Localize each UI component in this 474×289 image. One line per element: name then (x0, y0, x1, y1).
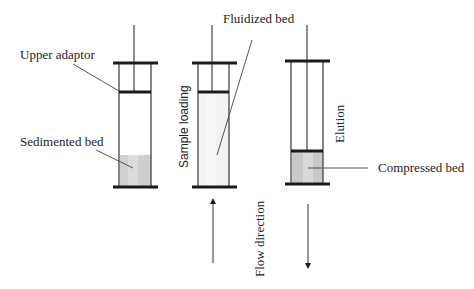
eba-diagram: Upper adaptor Sedimented bed Fluidized b… (0, 0, 474, 289)
fluidized-bed-band (206, 94, 216, 187)
column-sedimented (113, 25, 158, 187)
label-flow-direction: Flow direction (252, 200, 267, 277)
label-sample-loading: Sample loading (177, 85, 191, 168)
label-fluidized-bed: Fluidized bed (223, 11, 295, 26)
label-compressed-bed: Compressed bed (378, 160, 465, 175)
column-compressed (285, 25, 330, 184)
column-fluidized (192, 25, 237, 187)
leader-upper-adaptor (73, 64, 119, 91)
label-elution: Elution (332, 104, 347, 143)
label-upper-adaptor: Upper adaptor (20, 47, 95, 62)
sedimented-bed-band (128, 155, 138, 187)
label-sedimented-bed: Sedimented bed (20, 134, 104, 149)
